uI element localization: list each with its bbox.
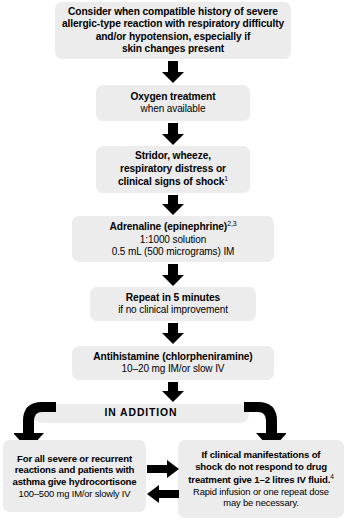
- node-antihistamine-detail: 10–20 mg IM/or slow IV: [122, 363, 225, 375]
- node-stridor-line-3-text: clinical signs of shock: [118, 176, 224, 187]
- node-adrenaline-detail-2: 0.5 mL (500 micrograms) IM: [112, 246, 235, 258]
- node-stridor-line-2: respiratory distress or: [120, 163, 226, 175]
- arrow-down-icon-stridor-to-adrenaline: [162, 195, 184, 215]
- node-stridor-signs: Stridor, wheeze, respiratory distress or…: [96, 146, 250, 193]
- arrow-down-icon-antihistamine-to-in-addition: [162, 382, 184, 402]
- arrow-down-icon-consider-to-oxygen: [162, 61, 184, 83]
- node-oxygen-heading: Oxygen treatment: [130, 91, 215, 103]
- node-consider: Consider when compatible history of seve…: [55, 2, 291, 59]
- footnote-marker-1: 1: [224, 175, 228, 182]
- node-iv-fluid-line-3: treatment give 1–2 litres IV fluid.4: [188, 473, 333, 486]
- node-stridor-line-3: clinical signs of shock1: [118, 175, 228, 189]
- node-stridor-line-1: Stridor, wheeze,: [135, 150, 211, 162]
- arrow-down-icon-repeat-to-antihistamine: [162, 323, 184, 344]
- footnote-marker-4: 4: [330, 473, 333, 480]
- node-consider-line-3: and/or hypotension, especially if: [96, 31, 251, 43]
- node-in-addition: IN ADDITION: [33, 404, 249, 423]
- arrow-down-icon-oxygen-to-stridor: [162, 123, 184, 145]
- node-consider-line-4: skin changes present: [122, 43, 224, 55]
- arrow-down-icon-adrenaline-to-repeat: [162, 264, 184, 286]
- footnote-marker-2-3: 2,3: [227, 220, 236, 227]
- node-antihistamine-heading: Antihistamine (chlorpheniramine): [93, 351, 252, 363]
- node-adrenaline: Adrenaline (epinephrine)2,3 1:1000 solut…: [72, 216, 274, 262]
- node-consider-line-1: Consider when compatible history of seve…: [68, 6, 278, 18]
- node-adrenaline-heading: Adrenaline (epinephrine)2,3: [110, 220, 237, 234]
- node-iv-fluid-line-1: If clinical manifestations of: [202, 449, 321, 461]
- node-hydrocortisone-line-2: reactions and patients with: [15, 464, 135, 476]
- node-consider-line-2: allergic-type reaction with respiratory …: [62, 18, 284, 30]
- node-oxygen-treatment: Oxygen treatment when available: [96, 85, 250, 121]
- node-hydrocortisone-detail: 100–500 mg IM/or slowly IV: [19, 488, 131, 499]
- node-oxygen-detail: when available: [141, 103, 206, 115]
- node-iv-fluid-line-3-text: treatment give 1–2 litres IV fluid.: [188, 474, 330, 485]
- node-adrenaline-detail-1: 1:1000 solution: [140, 234, 206, 246]
- node-repeat-detail: if no clinical improvement: [118, 304, 228, 316]
- node-iv-fluid-detail-1: Rapid infusion or one repeat dose: [193, 486, 329, 497]
- node-iv-fluid-detail-2: may be necessary.: [223, 497, 298, 508]
- node-in-addition-label: IN ADDITION: [104, 407, 177, 420]
- arrow-left-icon-iv-fluid-to-hydrocortisone: [147, 487, 179, 501]
- node-antihistamine: Antihistamine (chlorpheniramine) 10–20 m…: [72, 346, 274, 380]
- node-iv-fluid-line-2: shock do not respond to drug: [195, 461, 327, 473]
- arrow-right-icon-hydrocortisone-to-iv-fluid: [147, 462, 179, 476]
- node-hydrocortisone-line-1: For all severe or recurrent: [17, 453, 132, 465]
- node-repeat-dose: Repeat in 5 minutes if no clinical impro…: [90, 287, 256, 321]
- node-repeat-heading: Repeat in 5 minutes: [126, 292, 220, 304]
- node-iv-fluid: If clinical manifestations of shock do n…: [178, 440, 344, 518]
- node-hydrocortisone: For all severe or recurrent reactions an…: [3, 440, 146, 512]
- node-adrenaline-heading-text: Adrenaline (epinephrine): [110, 221, 228, 232]
- anaphylaxis-flowchart: Consider when compatible history of seve…: [0, 0, 346, 521]
- node-hydrocortisone-line-3: asthma give hydrocortisone: [12, 476, 136, 488]
